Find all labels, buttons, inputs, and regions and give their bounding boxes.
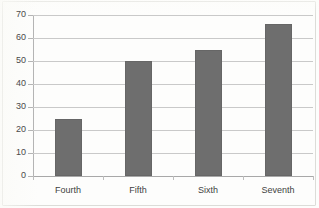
y-axis-tick-label: 0 [2,171,26,180]
y-axis-tick [28,61,33,62]
y-axis-tick-label: 10 [2,148,26,157]
y-axis-tick-label: 30 [2,102,26,111]
x-axis-tick [173,176,174,180]
y-axis-tick [28,84,33,85]
y-axis-tick [28,176,33,177]
y-axis-tick [28,38,33,39]
x-axis-category-label: Sixth [173,185,243,195]
y-axis-tick [28,153,33,154]
y-axis-labels: 010203040506070 [0,0,26,208]
chart-page: 010203040506070 FourthFifthSixthSeventh [0,0,319,208]
y-axis-tick [28,130,33,131]
y-axis-tick [28,15,33,16]
x-axis-tick [103,176,104,180]
x-axis-tick [243,176,244,180]
bar [265,24,292,176]
y-axis-tick [28,107,33,108]
y-axis-tick-label: 60 [2,33,26,42]
y-axis-tick-label: 20 [2,125,26,134]
x-axis-category-label: Seventh [243,185,313,195]
x-axis-tick [33,176,34,180]
bar [195,50,222,177]
y-axis-tick-label: 50 [2,56,26,65]
y-axis-tick-label: 40 [2,79,26,88]
bar [55,119,82,177]
x-axis-category-label: Fourth [33,185,103,195]
x-axis-tick [313,176,314,180]
bar-series [33,15,313,176]
bar [125,61,152,176]
y-axis-tick-label: 70 [2,10,26,19]
x-axis-category-label: Fifth [103,185,173,195]
